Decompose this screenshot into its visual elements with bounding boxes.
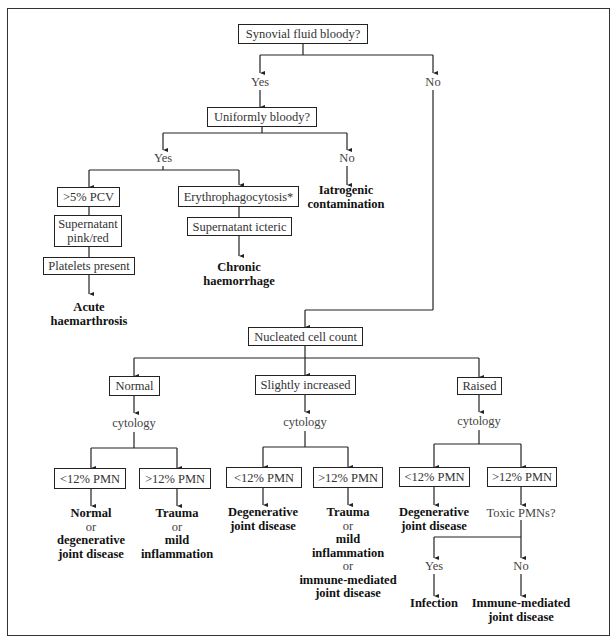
outcome-immune-mediated: Immune-mediated joint disease <box>472 597 571 624</box>
label-cytology-raised: cytology <box>457 414 501 428</box>
outcome-acute-haemarthrosis: Acute haemarthrosis <box>51 301 128 328</box>
node-nucleated-cell-count: Nucleated cell count <box>248 327 363 346</box>
label-no-bloody: No <box>425 75 440 89</box>
outcome-infection: Infection <box>410 597 458 611</box>
label-no-uniform: No <box>339 151 354 165</box>
label-yes-bloody: Yes <box>251 75 269 89</box>
node-raised-low-pmn: <12% PMN <box>399 467 470 487</box>
node-normal-low-pmn: <12% PMN <box>54 468 126 489</box>
label-cytology-normal: cytology <box>112 416 156 430</box>
node-raised-high-pmn: >12% PMN <box>487 467 557 487</box>
node-slightly-increased: Slightly increased <box>255 375 356 395</box>
outcome-degenerative-joint-disease: Degenerative joint disease <box>228 506 298 533</box>
outcome-iatrogenic: Iatrogenic contamination <box>307 184 384 211</box>
node-uniformly-bloody: Uniformly bloody? <box>207 107 317 127</box>
outcome-chronic-haemorrhage: Chronic haemorrhage <box>203 261 275 288</box>
node-pcv: >5% PCV <box>57 187 120 207</box>
label-cytology-slightly: cytology <box>283 415 327 429</box>
node-slightly-high-pmn: >12% PMN <box>313 467 383 488</box>
outcome-raised-degenerative: Degenerative joint disease <box>399 506 469 533</box>
outcome-trauma-or-mild-inflammation: Trauma or mild inflammation <box>141 507 213 561</box>
outcome-normal-or-degenerative: Normal or degenerative joint disease <box>57 507 125 561</box>
label-toxic-pmns: Toxic PMNs? <box>487 506 556 520</box>
label-toxic-no: No <box>513 559 528 573</box>
node-erythrophagocytosis: Erythrophagocytosis* <box>178 186 299 207</box>
node-synovial-fluid-bloody: Synovial fluid bloody? <box>238 24 368 44</box>
node-label: Synovial fluid bloody? <box>246 27 361 41</box>
node-supernatant-pink: Supernatant pink/red <box>54 215 122 247</box>
node-raised: Raised <box>457 377 502 395</box>
label-toxic-yes: Yes <box>425 559 443 573</box>
node-normal-high-pmn: >12% PMN <box>139 468 211 489</box>
label-yes-uniform: Yes <box>154 151 172 165</box>
node-slightly-low-pmn: <12% PMN <box>226 467 302 488</box>
node-platelets-present: Platelets present <box>43 257 135 275</box>
outcome-trauma-inflammation-immune: Trauma or mild inflammation or immune-me… <box>299 506 396 601</box>
node-supernatant-icteric: Supernatant icteric <box>187 217 292 236</box>
node-normal: Normal <box>109 376 160 396</box>
node-label: Uniformly bloody? <box>214 110 310 124</box>
